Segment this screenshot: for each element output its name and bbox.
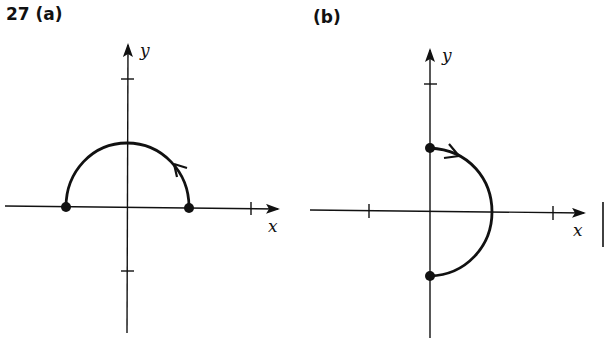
y-axis-label: y [441, 45, 452, 65]
panel-a: y x [5, 40, 278, 333]
y-axis-label: y [139, 40, 150, 60]
diagram-canvas: y x y x [0, 0, 609, 354]
x-axis [310, 210, 584, 213]
x-axis [5, 206, 278, 209]
x-axis-label: x [573, 220, 583, 240]
x-axis-label: x [268, 216, 278, 236]
endpoint-dot [425, 271, 435, 281]
endpoint-dot [61, 202, 71, 212]
y-axis [127, 45, 128, 333]
panel-b: y x [310, 45, 603, 338]
endpoint-dot [425, 143, 435, 153]
endpoint-dot [184, 203, 194, 213]
